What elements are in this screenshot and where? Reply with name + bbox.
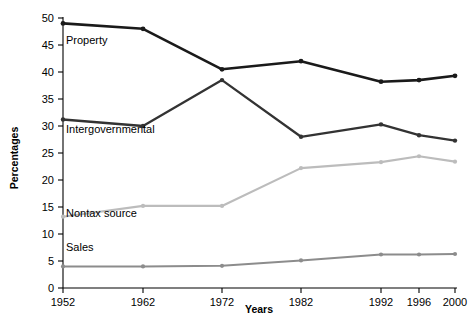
y-axis-tick-label: 10 bbox=[42, 228, 54, 240]
data-point bbox=[61, 215, 65, 219]
data-point bbox=[220, 204, 224, 208]
x-axis-title: Years bbox=[245, 303, 273, 315]
data-point bbox=[417, 133, 421, 137]
data-point bbox=[61, 117, 65, 121]
series-inline-labels: PropertyIntergovernmentalNontax sourceSa… bbox=[66, 34, 155, 253]
y-axis-tick-label: 0 bbox=[48, 282, 54, 294]
y-axis-tick-label: 25 bbox=[42, 147, 54, 159]
data-point bbox=[141, 264, 145, 268]
series-label-intergovernmental: Intergovernmental bbox=[66, 123, 155, 135]
x-axis-tick-label: 1962 bbox=[131, 296, 155, 308]
data-point bbox=[299, 59, 304, 64]
data-point bbox=[141, 204, 145, 208]
y-axis-title: Percentages bbox=[8, 127, 20, 190]
y-axis-tick-label: 15 bbox=[42, 201, 54, 213]
series-line bbox=[63, 23, 455, 81]
line-chart: 05101520253035404550 1952196219721982199… bbox=[0, 0, 474, 323]
data-point bbox=[61, 21, 66, 26]
data-point bbox=[453, 160, 457, 164]
x-axis-tick-label: 1996 bbox=[407, 296, 431, 308]
y-axis-tick-label: 20 bbox=[42, 174, 54, 186]
y-axis-tick-label: 5 bbox=[48, 255, 54, 267]
data-point bbox=[453, 73, 458, 78]
series-property bbox=[61, 21, 458, 84]
series-lines bbox=[61, 21, 458, 269]
y-axis-tick-label: 40 bbox=[42, 66, 54, 78]
x-axis-tick-label: 1952 bbox=[51, 296, 75, 308]
data-point bbox=[299, 258, 303, 262]
data-point bbox=[299, 135, 303, 139]
data-point bbox=[220, 78, 224, 82]
x-axis-tick-label: 2000 bbox=[443, 296, 467, 308]
data-point bbox=[220, 67, 225, 72]
data-point bbox=[379, 122, 383, 126]
data-point bbox=[61, 264, 65, 268]
series-label-property: Property bbox=[66, 34, 108, 46]
data-point bbox=[417, 252, 421, 256]
series-line bbox=[63, 254, 455, 266]
series-label-sales: Sales bbox=[66, 241, 94, 253]
chart-canvas: 05101520253035404550 1952196219721982199… bbox=[0, 0, 474, 323]
data-point bbox=[417, 78, 422, 83]
series-label-nontax-source: Nontax source bbox=[66, 207, 137, 219]
data-point bbox=[417, 154, 421, 158]
data-point bbox=[141, 26, 146, 31]
x-axis-tick-label: 1992 bbox=[369, 296, 393, 308]
x-axis-tick-label: 1982 bbox=[289, 296, 313, 308]
data-point bbox=[453, 252, 457, 256]
y-axis-tick-label: 35 bbox=[42, 93, 54, 105]
data-point bbox=[379, 252, 383, 256]
series-sales bbox=[61, 252, 457, 269]
x-axis-tick-label: 1972 bbox=[210, 296, 234, 308]
y-axis-tick-label: 45 bbox=[42, 39, 54, 51]
data-point bbox=[453, 138, 457, 142]
data-point bbox=[379, 79, 384, 84]
y-axis-tick-label: 50 bbox=[42, 12, 54, 24]
data-point bbox=[299, 166, 303, 170]
data-point bbox=[220, 264, 224, 268]
y-axis-tick-label: 30 bbox=[42, 120, 54, 132]
y-axis: 05101520253035404550 bbox=[42, 12, 63, 294]
data-point bbox=[379, 160, 383, 164]
